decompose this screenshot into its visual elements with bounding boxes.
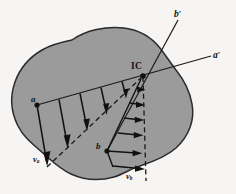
- label-ic: IC: [131, 62, 142, 72]
- label-velocity-a-subscript: a: [37, 158, 40, 164]
- label-velocity-b-subscript: b: [130, 175, 133, 181]
- label-ray-b-prime: b′: [174, 10, 181, 20]
- ic-marker: [140, 73, 146, 79]
- label-ray-b-prime-mark: ′: [179, 9, 182, 19]
- label-ray-a-prime: a′: [213, 51, 220, 61]
- label-point-b: b: [96, 142, 101, 151]
- point-b-marker: [104, 148, 109, 153]
- label-velocity-a: va: [33, 155, 39, 164]
- label-ray-a-prime-mark: ′: [218, 50, 221, 60]
- label-point-a: a: [31, 95, 36, 104]
- label-velocity-b: vb: [126, 172, 132, 181]
